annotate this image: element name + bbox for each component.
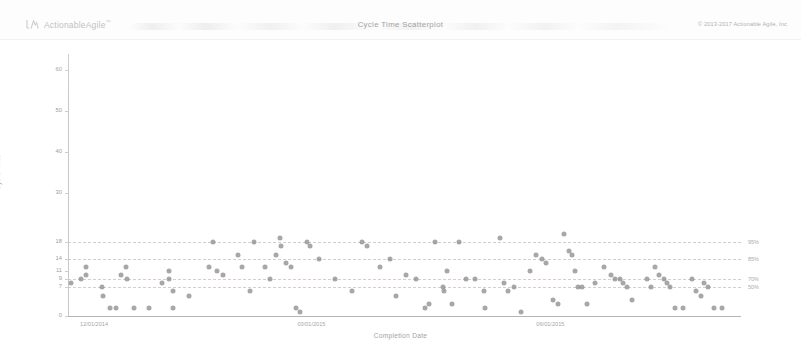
scatter-point[interactable]	[114, 305, 119, 310]
scatter-point[interactable]	[365, 244, 370, 249]
scatter-point[interactable]	[427, 301, 432, 306]
scatter-point[interactable]	[602, 264, 607, 269]
scatter-point[interactable]	[556, 301, 561, 306]
percentile-line	[68, 242, 741, 243]
scatter-point[interactable]	[100, 293, 105, 298]
scatter-point[interactable]	[719, 305, 724, 310]
scatter-point[interactable]	[473, 277, 478, 282]
scatter-point[interactable]	[502, 281, 507, 286]
scatter-point[interactable]	[624, 285, 629, 290]
scatter-point[interactable]	[644, 277, 649, 282]
scatter-point[interactable]	[252, 240, 257, 245]
copyright-notice: © 2013-2017 Actionable Agile, Inc	[698, 21, 787, 27]
scatter-point[interactable]	[289, 264, 294, 269]
y-tick-label: 50	[44, 107, 62, 113]
scatter-point[interactable]	[543, 260, 548, 265]
scatter-point[interactable]	[533, 252, 538, 257]
scatter-point[interactable]	[69, 281, 74, 286]
scatter-point[interactable]	[317, 256, 322, 261]
scatter-point[interactable]	[308, 244, 313, 249]
scatter-point[interactable]	[298, 309, 303, 314]
scatter-point[interactable]	[482, 289, 487, 294]
scatter-point[interactable]	[706, 285, 711, 290]
scatter-point[interactable]	[449, 301, 454, 306]
scatter-point[interactable]	[593, 281, 598, 286]
scatter-point[interactable]	[210, 240, 215, 245]
scatter-point[interactable]	[422, 305, 427, 310]
scatter-point[interactable]	[698, 293, 703, 298]
scatter-point[interactable]	[166, 277, 171, 282]
scatter-point[interactable]	[283, 260, 288, 265]
scatter-point[interactable]	[505, 289, 510, 294]
scatter-point[interactable]	[273, 252, 278, 257]
y-axis-line	[68, 54, 69, 317]
scatter-point[interactable]	[279, 244, 284, 249]
scatter-point[interactable]	[528, 268, 533, 273]
percentile-line	[68, 287, 741, 288]
scatter-point[interactable]	[483, 305, 488, 310]
scatter-point[interactable]	[569, 252, 574, 257]
scatter-point[interactable]	[263, 264, 268, 269]
y-axis-title: Cycle Time	[0, 154, 1, 190]
scatter-point[interactable]	[83, 264, 88, 269]
scatter-point[interactable]	[83, 273, 88, 278]
scatter-point[interactable]	[672, 305, 677, 310]
scatter-point[interactable]	[630, 297, 635, 302]
scatter-point[interactable]	[207, 264, 212, 269]
scatter-point[interactable]	[712, 305, 717, 310]
scatter-point[interactable]	[267, 277, 272, 282]
scatter-point[interactable]	[579, 285, 584, 290]
scatter-point[interactable]	[445, 268, 450, 273]
scatter-point[interactable]	[441, 289, 446, 294]
scatter-point[interactable]	[107, 305, 112, 310]
scatter-point[interactable]	[377, 264, 382, 269]
scatter-point[interactable]	[668, 285, 673, 290]
scatter-point[interactable]	[649, 285, 654, 290]
scatter-point[interactable]	[171, 289, 176, 294]
scatter-point[interactable]	[497, 236, 502, 241]
y-tick-label: 18	[44, 238, 62, 244]
scatter-point[interactable]	[387, 256, 392, 261]
scatter-point[interactable]	[146, 305, 151, 310]
y-tick-label: 40	[44, 148, 62, 154]
percentile-label: 70%	[748, 276, 759, 282]
scatter-point[interactable]	[118, 273, 123, 278]
scatter-point[interactable]	[457, 240, 462, 245]
scatter-point[interactable]	[689, 277, 694, 282]
scatter-point[interactable]	[403, 273, 408, 278]
scatter-point[interactable]	[79, 277, 84, 282]
scatter-point[interactable]	[124, 264, 129, 269]
scatter-point[interactable]	[432, 240, 437, 245]
scatter-point[interactable]	[572, 268, 577, 273]
scatter-point[interactable]	[160, 281, 165, 286]
scatter-point[interactable]	[220, 273, 225, 278]
cycle-time-scatterplot[interactable]: Cycle Time Completion Date 0791114183040…	[0, 40, 801, 351]
y-tick-mark	[65, 316, 68, 317]
scatter-point[interactable]	[519, 309, 524, 314]
scatter-point[interactable]	[561, 232, 566, 237]
scatter-point[interactable]	[413, 277, 418, 282]
scatter-point[interactable]	[680, 305, 685, 310]
scatter-point[interactable]	[652, 264, 657, 269]
scatter-point[interactable]	[550, 297, 555, 302]
scatter-point[interactable]	[125, 277, 130, 282]
scatter-point[interactable]	[132, 305, 137, 310]
scatter-point[interactable]	[359, 240, 364, 245]
scatter-point[interactable]	[512, 285, 517, 290]
y-tick-label: 30	[44, 189, 62, 195]
scatter-point[interactable]	[277, 236, 282, 241]
scatter-point[interactable]	[332, 277, 337, 282]
y-tick-mark	[65, 193, 68, 194]
scatter-point[interactable]	[349, 289, 354, 294]
scatter-point[interactable]	[171, 305, 176, 310]
scatter-point[interactable]	[236, 252, 241, 257]
scatter-point[interactable]	[247, 289, 252, 294]
scatter-point[interactable]	[239, 264, 244, 269]
scatter-point[interactable]	[464, 277, 469, 282]
scatter-point[interactable]	[585, 301, 590, 306]
scatter-point[interactable]	[166, 268, 171, 273]
scatter-point[interactable]	[187, 293, 192, 298]
scatter-point[interactable]	[215, 268, 220, 273]
scatter-point[interactable]	[99, 285, 104, 290]
scatter-point[interactable]	[393, 293, 398, 298]
